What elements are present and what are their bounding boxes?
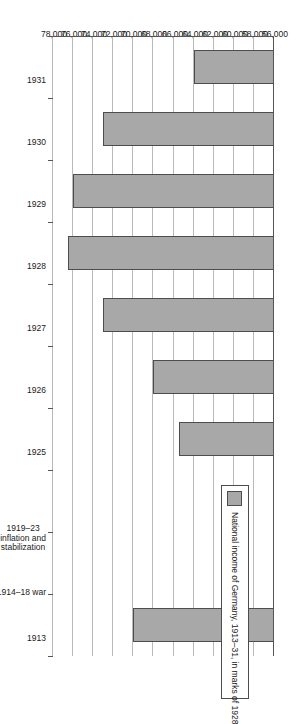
- category-label-line: 1926: [27, 385, 46, 395]
- category-tick: [48, 346, 53, 347]
- category-axis-label-1925: 1925: [27, 448, 46, 458]
- category-label-line: 1914–18 war: [0, 587, 46, 597]
- bar-1925[interactable]: [179, 422, 274, 457]
- category-label-line: 1929: [27, 199, 46, 209]
- bar-1926[interactable]: [153, 360, 274, 395]
- chart-legend: National income of Germany, 1913–31, in …: [221, 485, 249, 699]
- category-label-line: 1930: [27, 137, 46, 147]
- bar-1913[interactable]: [133, 608, 274, 643]
- category-axis-label-1913: 1913: [27, 634, 46, 644]
- category-tick: [48, 532, 53, 533]
- bar-1928[interactable]: [68, 236, 274, 271]
- bar-1931[interactable]: [194, 50, 274, 85]
- category-label-line: 1913: [27, 633, 46, 643]
- category-axis-label-1926: 1926: [27, 386, 46, 396]
- bar-1927[interactable]: [103, 298, 274, 333]
- category-axis-label-1930: 1930: [27, 138, 46, 148]
- category-axis-label-1928: 1928: [27, 262, 46, 272]
- category-label-line: stabilization: [0, 543, 46, 553]
- category-axis-label-1931: 1931: [27, 76, 46, 86]
- category-tick: [48, 594, 53, 595]
- category-tick: [48, 656, 53, 657]
- category-label-line: 1927: [27, 323, 46, 333]
- legend-swatch-icon: [228, 491, 243, 506]
- category-label-line: 1931: [27, 75, 46, 85]
- category-axis-label-1914–18 war: 1914–18 war: [0, 588, 46, 598]
- bar-1930[interactable]: [103, 112, 274, 147]
- value-axis: 78,00076,00074,00072,00070,00068,00066,0…: [53, 0, 274, 36]
- category-label-line: 1925: [27, 447, 46, 457]
- category-label-line: 1928: [27, 261, 46, 271]
- category-tick: [48, 470, 53, 471]
- category-tick: [48, 222, 53, 223]
- category-axis-label-1919–23 inflation and stabilization: 1919–23inflation andstabilization: [0, 524, 46, 553]
- bar-1929[interactable]: [73, 174, 274, 209]
- category-label-line: 1919–23: [7, 523, 40, 533]
- category-axis: 19131914–18 war1919–23inflation andstabi…: [1, 36, 53, 656]
- category-axis-label-1929: 1929: [27, 200, 46, 210]
- category-tick: [48, 408, 53, 409]
- category-tick: [48, 284, 53, 285]
- category-tick: [48, 160, 53, 161]
- legend-label: National income of Germany, 1913–31, in …: [230, 512, 240, 724]
- category-tick: [48, 36, 53, 37]
- category-tick: [48, 98, 53, 99]
- plot-area: National income of Germany, 1913–31, in …: [53, 36, 274, 656]
- category-axis-label-1927: 1927: [27, 324, 46, 334]
